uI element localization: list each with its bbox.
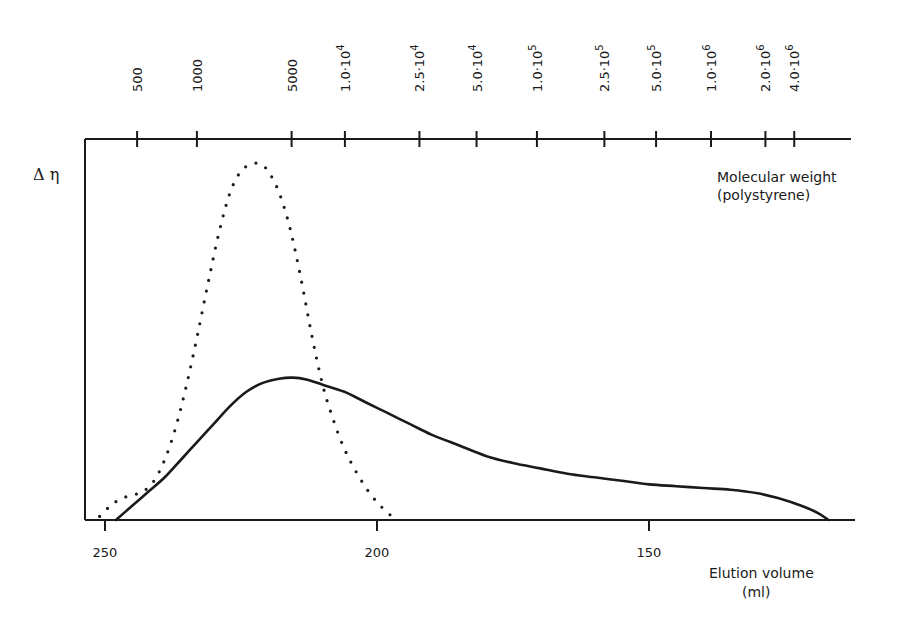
solid-curve — [116, 378, 829, 520]
x-axis-title: Elution volume — [709, 565, 814, 581]
mw-tick-label: 5.0·105 — [646, 44, 664, 92]
top-axis-subtitle: (polystyrene) — [717, 187, 810, 203]
mw-tick-label: 1000 — [190, 59, 205, 92]
x-tick-label: 250 — [93, 545, 118, 560]
mw-tick-label: 1.0·106 — [701, 44, 719, 92]
top-axis-title: Molecular weight — [717, 169, 837, 185]
mw-tick-label: 5.0·104 — [467, 44, 485, 92]
x-tick-label: 150 — [637, 545, 662, 560]
series-dotted — [100, 163, 396, 520]
series-solid — [116, 378, 829, 520]
x-axis-unit: (ml) — [742, 584, 770, 600]
gpc-chromatogram-chart: 500100050001.0·1042.5·1045.0·1041.0·1052… — [0, 0, 908, 635]
dotted-curve — [100, 163, 396, 520]
mw-tick-label: 1.0·104 — [335, 44, 353, 92]
mw-tick-label: 500 — [130, 67, 145, 92]
mw-tick-label: 4.0·106 — [784, 44, 802, 92]
top-axis-molecular-weight-ticks: 500100050001.0·1042.5·1045.0·1041.0·1052… — [130, 44, 802, 147]
x-tick-label: 200 — [365, 545, 390, 560]
mw-tick-label: 2.5·104 — [409, 44, 427, 92]
mw-tick-label: 5000 — [285, 59, 300, 92]
bottom-axis-elution-volume-ticks: 250200150 — [93, 520, 662, 560]
mw-tick-label: 1.0·105 — [527, 44, 545, 92]
mw-tick-label: 2.0·106 — [755, 44, 773, 92]
y-axis-label: Δ η — [33, 165, 59, 184]
mw-tick-label: 2.5·105 — [594, 44, 612, 92]
